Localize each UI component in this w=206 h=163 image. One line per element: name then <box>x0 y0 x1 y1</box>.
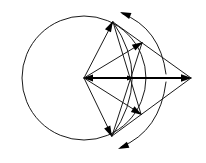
arrowhead-rotation-top-icon <box>120 12 131 19</box>
edge-top-to-lower-mid <box>113 22 141 114</box>
rotation-arc-bottom <box>121 82 166 147</box>
arrowhead-up-at-top-vertex-icon <box>105 21 113 32</box>
figure-container <box>0 0 206 163</box>
edge-bottom-to-apex <box>112 78 191 136</box>
arrowhead-rotation-bottom-icon <box>118 142 129 149</box>
edge-top-to-apex <box>113 22 191 78</box>
geometry-diagram <box>0 0 206 163</box>
